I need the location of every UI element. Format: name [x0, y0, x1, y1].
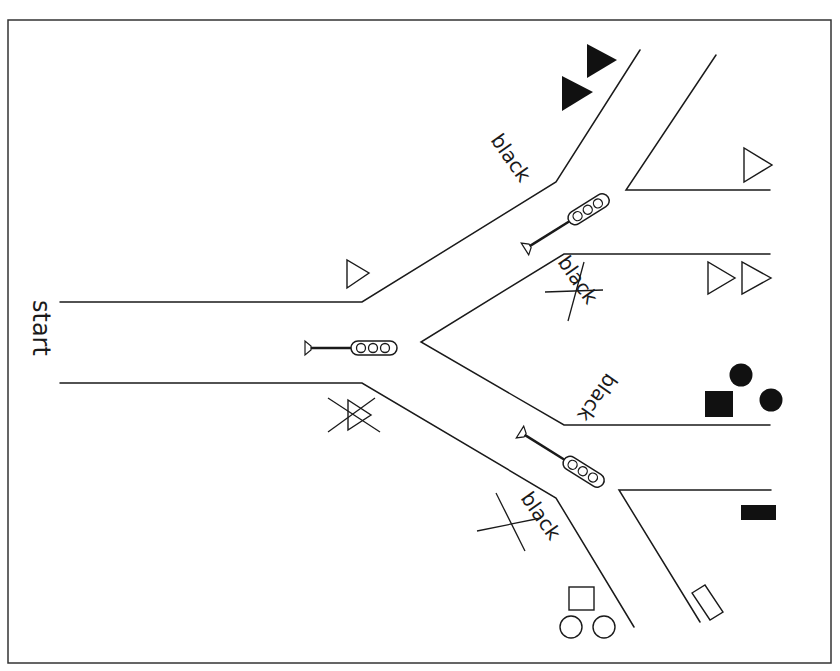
filled-shapes-middle — [705, 364, 783, 521]
filled-rectangle-icon — [741, 505, 776, 520]
middle-lower-label: black — [572, 369, 622, 427]
filled-triangles-top — [562, 44, 617, 111]
start-label: start — [27, 300, 55, 356]
outline-rectangle-icon — [692, 585, 723, 620]
filled-square-icon — [705, 391, 733, 417]
outline-triangle-icon — [347, 260, 369, 288]
filled-circle-icon — [760, 389, 783, 412]
traffic-light-upper — [521, 191, 612, 255]
road-diagram: start black black black black — [0, 0, 840, 671]
traffic-light-main — [305, 341, 397, 355]
outline-square-icon — [569, 587, 594, 610]
middle-upper-label: black — [553, 251, 603, 309]
filled-triangle-icon — [562, 76, 593, 111]
outline-circle-icon — [560, 616, 582, 638]
outline-triangle-icon — [744, 148, 772, 182]
road-lines — [60, 50, 771, 627]
outline-shapes-bottom — [560, 585, 723, 638]
traffic-light-lower — [516, 426, 607, 490]
lower-road-label: black — [516, 487, 566, 545]
outline-triangle-icon — [708, 262, 735, 294]
upper-pocket-edge — [626, 55, 770, 190]
filled-triangle-icon — [587, 44, 617, 78]
outline-triangle-icon — [742, 262, 771, 294]
outline-circle-icon — [593, 616, 615, 638]
upper-road-label: black — [486, 129, 536, 187]
diagram-frame — [8, 20, 831, 663]
filled-circle-icon — [730, 364, 753, 387]
